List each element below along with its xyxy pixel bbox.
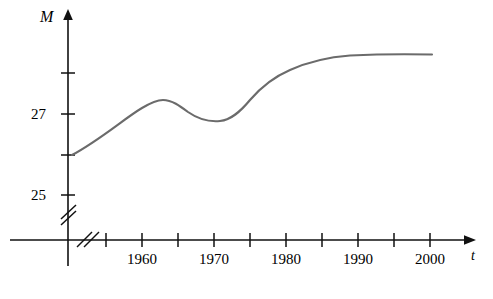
x-tick-label-1960: 1960 xyxy=(118,252,166,267)
data-curve-M xyxy=(72,54,432,155)
x-tick-label-1970: 1970 xyxy=(190,252,238,267)
x-axis-label: t xyxy=(471,249,475,263)
y-tick-label-25: 25 xyxy=(12,188,46,203)
x-tick-label-1990: 1990 xyxy=(334,252,382,267)
x-axis-arrowhead xyxy=(464,235,476,245)
y-axis-arrowhead xyxy=(63,9,73,20)
y-axis-label: M xyxy=(40,9,53,25)
x-tick-label-1980: 1980 xyxy=(262,252,310,267)
x-tick-label-2000: 2000 xyxy=(406,252,454,267)
chart-canvas: M t 27 25 1960 1970 1980 1990 2000 xyxy=(0,0,493,299)
y-tick-label-27: 27 xyxy=(12,107,46,122)
